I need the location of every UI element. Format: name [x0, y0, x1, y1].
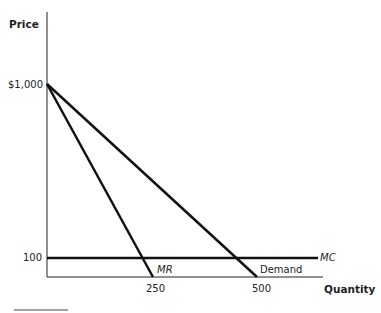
y-axis-label: Price: [9, 18, 39, 30]
x-axis-label: Quantity: [324, 283, 375, 295]
demand-label: Demand: [260, 264, 302, 275]
y-tick-1000: $1,000: [8, 79, 43, 90]
mr-line: [47, 84, 153, 277]
x-tick-250: 250: [146, 283, 165, 294]
y-tick-100: 100: [23, 252, 42, 263]
mc-label: MC: [320, 252, 336, 263]
x-tick-500: 500: [252, 283, 271, 294]
mr-label: MR: [157, 264, 173, 275]
chart-canvas: [0, 0, 381, 313]
demand-line: [47, 84, 257, 277]
